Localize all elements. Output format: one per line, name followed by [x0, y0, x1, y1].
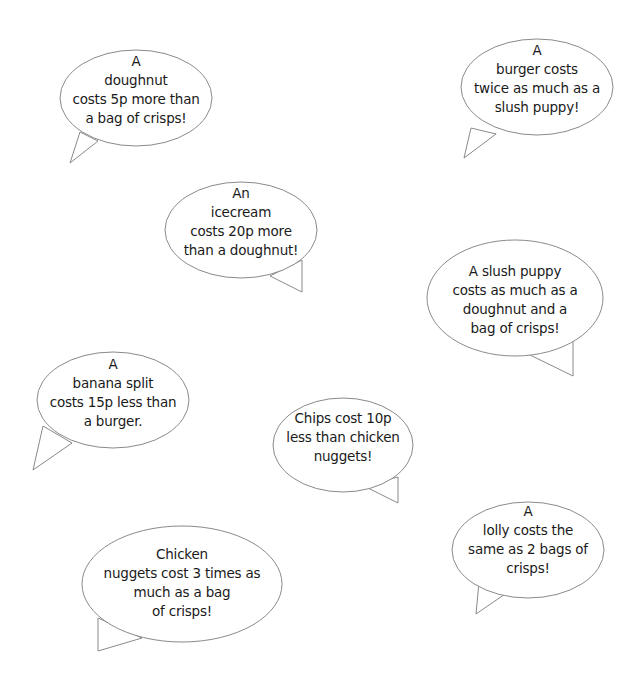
bubble-line: banana split	[38, 374, 188, 393]
bubble-line: nuggets!	[273, 447, 413, 466]
bubble-line: crisps!	[453, 559, 603, 578]
bubble-line: costs as much as a	[435, 281, 595, 300]
speech-bubble-burger: A burger costs twice as much as a slush …	[462, 41, 612, 117]
bubble-line: doughnut and a	[435, 300, 595, 319]
bubble-line: a burger.	[38, 412, 188, 431]
bubble-line: of crisps!	[92, 602, 272, 621]
bubble-line: doughnut	[61, 71, 211, 90]
bubble-line: A	[453, 502, 603, 521]
speech-bubble-chicken-nuggets: Chicken nuggets cost 3 times as much as …	[92, 545, 272, 621]
bubble-line: Chicken	[92, 545, 272, 564]
bubble-line: less than chicken	[273, 428, 413, 447]
worksheet-canvas: A doughnut costs 5p more than a bag of c…	[0, 0, 638, 678]
bubble-line: A	[462, 41, 612, 60]
bubble-line: Chips cost 10p	[273, 409, 413, 428]
bubble-line: than a doughnut!	[166, 241, 316, 260]
bubble-line: costs 5p more than	[61, 90, 211, 109]
bubble-line: nuggets cost 3 times as	[92, 564, 272, 583]
bubble-line: A slush puppy	[435, 262, 595, 281]
bubble-line: icecream	[166, 203, 316, 222]
bubble-line: bag of crisps!	[435, 319, 595, 338]
speech-bubble-lolly: A lolly costs the same as 2 bags of cris…	[453, 502, 603, 578]
speech-bubble-slush-puppy: A slush puppy costs as much as a doughnu…	[435, 262, 595, 338]
bubble-line: same as 2 bags of	[453, 540, 603, 559]
bubble-line: a bag of crisps!	[61, 109, 211, 128]
bubble-line: burger costs	[462, 60, 612, 79]
bubble-line: twice as much as a	[462, 79, 612, 98]
speech-bubble-banana-split: A banana split costs 15p less than a bur…	[38, 355, 188, 431]
speech-bubble-icecream: An icecream costs 20p more than a doughn…	[166, 184, 316, 260]
speech-bubble-doughnut: A doughnut costs 5p more than a bag of c…	[61, 52, 211, 128]
bubble-line: much as a bag	[92, 583, 272, 602]
bubble-line: costs 20p more	[166, 222, 316, 241]
bubble-line: An	[166, 184, 316, 203]
bubble-line: A	[38, 355, 188, 374]
speech-bubble-chips: Chips cost 10p less than chicken nuggets…	[273, 409, 413, 466]
bubble-line: A	[61, 52, 211, 71]
bubble-line: lolly costs the	[453, 521, 603, 540]
bubble-line: slush puppy!	[462, 98, 612, 117]
bubble-line: costs 15p less than	[38, 393, 188, 412]
